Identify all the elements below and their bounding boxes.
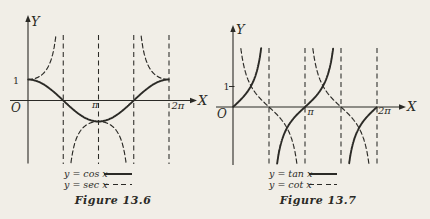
- figure-caption: Figure 13.7: [262, 194, 374, 207]
- book-page: YXO1π2π YXO1π2π y = cos x y = sec x y = …: [0, 0, 430, 219]
- legend-figure-13-7: y = tan x y = cot x: [269, 169, 337, 190]
- x-axis-arrow: [190, 98, 197, 103]
- legend-item-cos: y = cos x: [64, 169, 132, 180]
- y-axis-label: Y: [236, 22, 246, 37]
- legend-label-cot: y = cot x: [269, 180, 306, 190]
- legend-item-tan: y = tan x: [269, 169, 337, 180]
- x-axis-label: X: [406, 99, 417, 114]
- x-tick-pi-label: π: [91, 99, 99, 110]
- origin-label: O: [11, 101, 21, 115]
- legend-label-tan: y = tan x: [269, 169, 306, 179]
- legend-item-sec: y = sec x: [64, 180, 132, 191]
- legend-label-sec: y = sec x: [64, 180, 101, 190]
- y-tick-1-label: 1: [13, 75, 19, 86]
- y-tick-1-label: 1: [223, 81, 229, 92]
- legend-figure-13-6: y = cos x y = sec x: [64, 169, 132, 190]
- x-tick-2pi-label: 2π: [377, 105, 391, 116]
- sec-curve: [28, 36, 56, 79]
- x-tick-pi-label: π: [307, 106, 315, 117]
- solid-line-sample: [309, 173, 337, 175]
- x-axis-arrow: [399, 104, 406, 109]
- solid-line-sample: [104, 173, 132, 175]
- dashed-line-sample: [309, 184, 337, 185]
- legend-label-cos: y = cos x: [64, 169, 101, 179]
- origin-label: O: [217, 107, 227, 121]
- dashed-line-sample: [104, 184, 132, 185]
- tan-curve: [349, 107, 377, 163]
- x-axis-label: X: [197, 93, 208, 108]
- y-axis-arrow: [230, 25, 235, 32]
- y-axis-label: Y: [31, 14, 41, 29]
- sec-curve: [141, 36, 169, 79]
- legend-item-cot: y = cot x: [269, 180, 337, 191]
- y-axis-arrow: [25, 15, 30, 22]
- x-tick-2pi-label: 2π: [171, 100, 185, 111]
- figure-caption: Figure 13.6: [57, 194, 169, 207]
